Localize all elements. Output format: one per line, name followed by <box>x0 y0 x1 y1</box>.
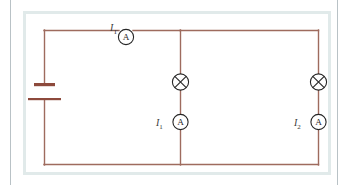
ammeter-branch-1: A <box>173 114 188 129</box>
label-branch2-current: I2 <box>294 118 301 131</box>
label-total-current: IT <box>110 23 118 36</box>
lamp-2 <box>310 74 326 90</box>
ammeter-total: A <box>118 29 133 44</box>
label-branch2-current-subscript: 2 <box>297 123 301 131</box>
circuit-wires <box>44 30 319 165</box>
battery-cell <box>28 83 61 100</box>
label-branch1-current: I1 <box>156 118 163 131</box>
label-branch1-current-subscript: 1 <box>159 123 163 131</box>
circuit-svg: A A A <box>0 0 353 185</box>
lamp-1 <box>172 74 188 90</box>
ammeter-branch-2: A <box>311 114 326 129</box>
battery-negative-plate <box>28 98 61 100</box>
ammeter-branch-2-glyph: A <box>315 117 322 127</box>
battery-positive-plate <box>34 83 55 86</box>
ammeter-total-glyph: A <box>123 32 130 42</box>
circuit-diagram: A A A <box>0 0 353 185</box>
ammeter-branch-1-glyph: A <box>177 117 184 127</box>
label-total-current-subscript: T <box>113 28 117 36</box>
screenshot-root: A A A <box>0 0 353 185</box>
